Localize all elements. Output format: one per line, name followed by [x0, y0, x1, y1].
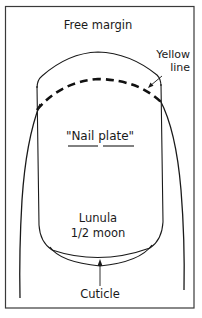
nail-anatomy-diagram: Free margin Yellow line "Nail plate" Lun…	[0, 0, 202, 318]
finger-outline-left	[20, 104, 40, 298]
label-yellow-line-2: line	[170, 61, 190, 74]
lunula-outline	[52, 248, 150, 258]
nail-plate-right-side	[150, 84, 163, 248]
label-lunula: Lunula	[79, 211, 117, 225]
label-yellow-line-1: Yellow	[155, 48, 190, 61]
label-half-moon: 1/2 moon	[71, 226, 126, 240]
finger-outline-right	[160, 100, 184, 290]
nail-free-edge-outline	[37, 52, 161, 88]
label-cuticle: Cuticle	[80, 287, 120, 301]
cuticle-arrow-icon	[98, 259, 103, 286]
yellow-line-arrow-icon	[148, 76, 162, 88]
label-nail-plate: "Nail plate"	[66, 129, 134, 143]
nail-plate-left-side	[37, 86, 52, 250]
yellow-line-dashed	[37, 79, 163, 110]
label-free-margin: Free margin	[64, 18, 133, 32]
